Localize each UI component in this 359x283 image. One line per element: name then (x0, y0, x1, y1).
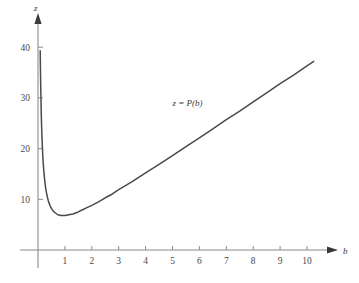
x-tick-label: 7 (224, 256, 229, 266)
y-axis-arrowhead (34, 13, 41, 24)
y-tick-label: 20 (21, 144, 31, 154)
x-tick-label: 5 (170, 256, 175, 266)
y-tick-label: 10 (21, 195, 31, 205)
x-axis-ticks: 12345678910 (63, 246, 312, 266)
x-tick-label: 4 (143, 256, 148, 266)
curve-equation-label: z = P(b) (172, 98, 203, 108)
x-tick-label: 9 (278, 256, 283, 266)
y-tick-label: 30 (21, 93, 31, 103)
x-axis-label: b (343, 246, 348, 256)
x-tick-label: 3 (116, 256, 121, 266)
y-tick-label: 40 (21, 43, 31, 53)
x-tick-label: 2 (89, 256, 94, 266)
x-tick-label: 10 (302, 256, 312, 266)
curve-z-of-b (40, 51, 314, 216)
y-axis-label: z (33, 3, 38, 13)
x-tick-label: 8 (251, 256, 256, 266)
x-tick-label: 6 (197, 256, 202, 266)
y-axis-ticks: 10203040 (21, 43, 44, 205)
x-axis-arrowhead (327, 246, 338, 253)
figure-container: 12345678910 10203040 z b z = P(b) (0, 0, 359, 283)
x-tick-label: 1 (63, 256, 68, 266)
chart-canvas: 12345678910 10203040 z b z = P(b) (0, 0, 359, 283)
